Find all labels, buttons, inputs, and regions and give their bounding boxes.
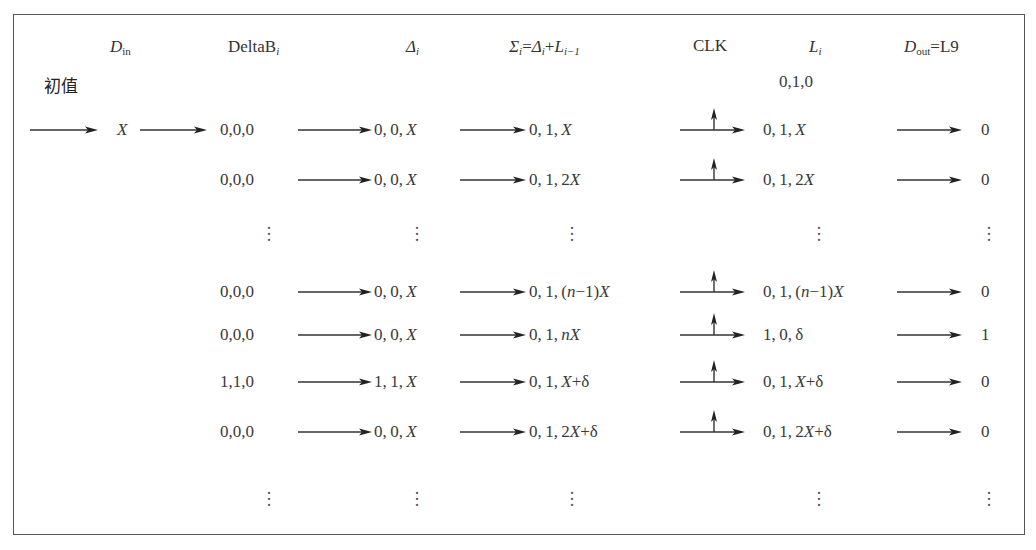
cell-delta: 0, 0, X: [374, 282, 417, 302]
ellipsis-dout: ···: [986, 225, 992, 243]
header-li-sub: i: [818, 45, 821, 57]
cell-sigma: 0, 1, nX: [529, 325, 580, 345]
cell-li: 0, 1, X: [763, 120, 806, 140]
cell-dout: 0: [981, 372, 990, 392]
arrow-clk-to-li: [680, 158, 747, 188]
header-dout: Dout=L9: [904, 37, 959, 61]
cell-deltab: 0,0,0: [220, 282, 254, 302]
header-din: Din: [110, 37, 131, 61]
arrow-delta-to-sigma: [460, 158, 528, 188]
ellipsis-sigma: ···: [569, 490, 575, 508]
cell-delta: 0, 0, X: [374, 170, 417, 190]
header-clk: CLK: [693, 36, 727, 56]
ellipsis-li: ···: [816, 490, 822, 508]
arrow-clk-to-li: [680, 108, 747, 138]
ellipsis-li: ···: [816, 225, 822, 243]
header-dout-eq: =L9: [930, 37, 958, 56]
cell-deltab: 0,0,0: [220, 422, 254, 442]
ellipsis-delta: ···: [414, 225, 420, 243]
arrow-delta-to-sigma: [460, 108, 528, 138]
cell-deltab: 0,0,0: [220, 170, 254, 190]
header-deltab-sub: i: [276, 45, 279, 57]
arrow-input: [30, 108, 100, 138]
arrow-deltab-to-delta: [298, 410, 374, 440]
ellipsis-delta: ···: [414, 490, 420, 508]
cell-delta: 0, 0, X: [374, 422, 417, 442]
cell-sigma: 0, 1, 2X+δ: [529, 422, 598, 442]
header-deltab-base: DeltaB: [228, 37, 276, 56]
arrow-li-to-dout: [897, 158, 964, 188]
header-sigma-plus: +: [545, 37, 555, 56]
ellipsis-dout: ···: [986, 490, 992, 508]
cell-li: 0, 1, X+δ: [763, 372, 823, 392]
arrow-delta-to-sigma: [460, 270, 528, 300]
cell-deltab: 1,1,0: [220, 372, 254, 392]
arrow-clk-to-li: [680, 360, 747, 390]
cell-dout: 1: [981, 325, 990, 345]
arrow-din-to-deltab: [140, 108, 209, 138]
cell-dout: 0: [981, 282, 990, 302]
header-li: Li: [809, 37, 822, 61]
header-deltab: DeltaBi: [228, 37, 279, 61]
cell-delta: 1, 1, X: [374, 372, 417, 392]
arrow-delta-to-sigma: [460, 313, 528, 343]
arrow-clk-to-li: [680, 270, 747, 300]
arrow-li-to-dout: [897, 270, 964, 300]
arrow-li-to-dout: [897, 313, 964, 343]
cell-li: 0, 1, (n−1)X: [763, 282, 844, 302]
cell-dout: 0: [981, 170, 990, 190]
header-dout-sub: out: [916, 45, 930, 57]
cell-sigma: 0, 1, X: [529, 120, 572, 140]
arrow-deltab-to-delta: [298, 158, 374, 188]
cell-li: 0, 1, 2X: [763, 170, 814, 190]
arrow-li-to-dout: [897, 360, 964, 390]
header-sigma-eq: =: [522, 37, 532, 56]
ellipsis-deltab: ···: [266, 490, 272, 508]
header-din-base: D: [110, 37, 122, 56]
ellipsis-sigma: ···: [569, 225, 575, 243]
header-dout-base: D: [904, 37, 916, 56]
header-sigma-l-sub: i−1: [564, 45, 580, 57]
header-sigma-l: L: [554, 37, 563, 56]
arrow-deltab-to-delta: [298, 360, 374, 390]
arrow-clk-to-li: [680, 313, 747, 343]
arrow-li-to-dout: [897, 410, 964, 440]
arrow-deltab-to-delta: [298, 108, 374, 138]
header-din-sub: in: [122, 45, 131, 57]
cell-li: 1, 0, δ: [763, 325, 803, 345]
header-sigma: Σi=Δi+Li−1: [509, 37, 580, 61]
cell-dout: 0: [981, 422, 990, 442]
arrow-delta-to-sigma: [460, 410, 528, 440]
cell-sigma: 0, 1, 2X: [529, 170, 580, 190]
cell-din: X: [117, 120, 127, 140]
cell-sigma: 0, 1, (n−1)X: [529, 282, 610, 302]
cell-deltab: 0,0,0: [220, 325, 254, 345]
initial-label: 初值: [44, 76, 78, 96]
cell-sigma: 0, 1, X+δ: [529, 372, 589, 392]
initial-l0: 0,1,0: [779, 72, 813, 92]
header-delta-base: Δ: [406, 37, 416, 56]
cell-dout: 0: [981, 120, 990, 140]
header-delta: Δi: [406, 37, 419, 61]
arrow-deltab-to-delta: [298, 270, 374, 300]
header-sigma-delta: Δ: [532, 37, 542, 56]
cell-li: 0, 1, 2X+δ: [763, 422, 832, 442]
arrow-deltab-to-delta: [298, 313, 374, 343]
header-sigma-symbol: Σ: [509, 37, 519, 56]
header-delta-sub: i: [416, 45, 419, 57]
cell-deltab: 0,0,0: [220, 120, 254, 140]
cell-delta: 0, 0, X: [374, 120, 417, 140]
cell-delta: 0, 0, X: [374, 325, 417, 345]
ellipsis-deltab: ···: [266, 225, 272, 243]
arrow-delta-to-sigma: [460, 360, 528, 390]
arrow-clk-to-li: [680, 410, 747, 440]
arrow-li-to-dout: [897, 108, 964, 138]
